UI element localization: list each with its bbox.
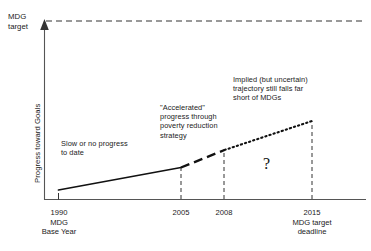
annotation-implied-trajectory: Implied (but uncertain) trajectory still… bbox=[233, 75, 345, 103]
annotation-accelerated-progress: "Accelerated" progress through poverty r… bbox=[160, 103, 238, 140]
series-slow-progress-line bbox=[59, 168, 182, 191]
x-tick-label-2008: 2008 bbox=[199, 208, 249, 218]
annotation-question-mark: ? bbox=[263, 155, 270, 173]
x-tick-label-2015: 2015 MDG target deadline bbox=[275, 208, 349, 237]
mdg-progress-chart: MDG target Progress toward Goals 1990 MD… bbox=[0, 0, 371, 251]
mdg-target-label: MDG target bbox=[8, 12, 28, 32]
y-axis-title: Progress toward Goals bbox=[33, 104, 42, 183]
x-tick-label-1990: 1990 MDG Base Year bbox=[28, 208, 90, 237]
series-accelerated-progress-line bbox=[181, 150, 225, 168]
annotation-slow-progress: Slow or no progress to date bbox=[61, 139, 166, 157]
